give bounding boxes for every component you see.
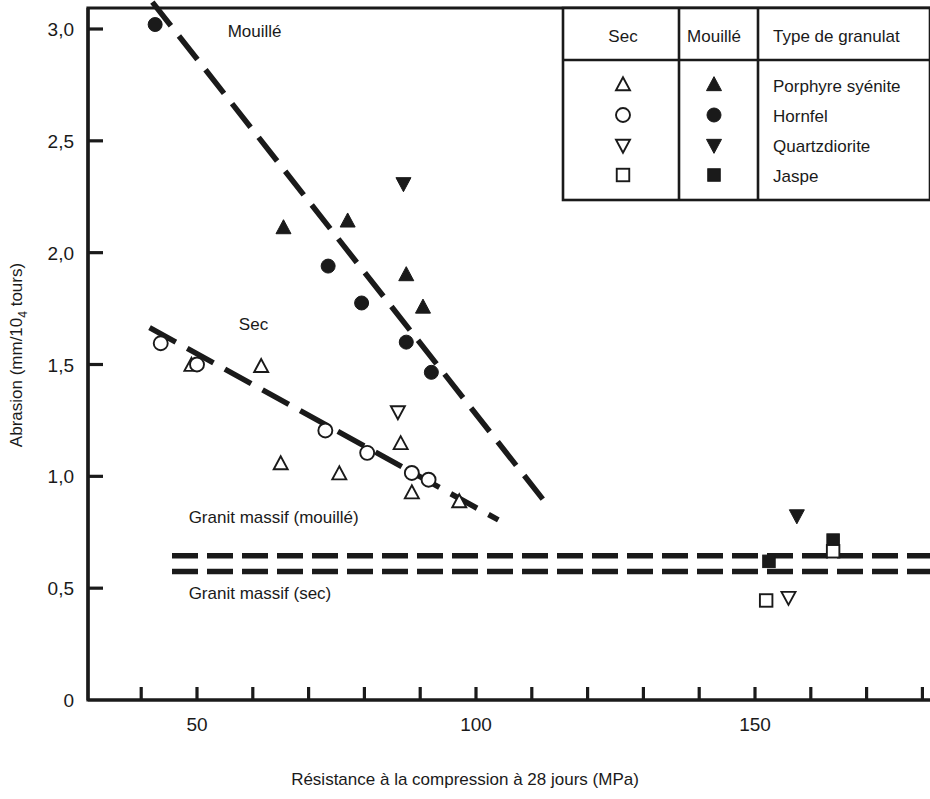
annotation-2: Granit massif (mouillé) (189, 508, 359, 527)
plot-annotations: MouilléSecGranit massif (mouillé)Granit … (189, 22, 359, 604)
data-point-filled-triangle-up (399, 267, 414, 281)
data-point-filled-triangle-up (276, 220, 291, 234)
data-point-open-circle (318, 423, 332, 437)
data-point-filled-circle (424, 365, 438, 379)
annotation-1: Sec (239, 315, 269, 334)
x-tick-label: 150 (739, 714, 771, 735)
legend-header-0: Sec (608, 27, 638, 46)
data-point-open-circle (405, 466, 419, 480)
legend-marker-sec-3 (617, 169, 630, 182)
data-point-filled-circle (148, 18, 162, 32)
data-point-filled-square (763, 555, 776, 568)
data-point-open-triangle-up (332, 466, 346, 479)
annotation-0: Mouillé (228, 22, 282, 41)
reference-lines (172, 556, 930, 572)
annotation-3: Granit massif (sec) (189, 584, 332, 603)
x-axis-title: Résistance à la compression à 28 jours (… (291, 770, 639, 789)
data-point-filled-triangle-up (340, 213, 355, 227)
legend-label-1: Hornfel (773, 107, 828, 126)
data-point-open-triangle-up (405, 485, 419, 498)
y-tick-label: 2,5 (48, 131, 74, 152)
legend-label-2: Quartzdiorite (773, 137, 870, 156)
x-axis: 50100150 (88, 687, 930, 735)
legend-marker-mouille-3 (708, 169, 721, 182)
y-tick-label: 1,5 (48, 355, 74, 376)
trend-lines (150, 2, 549, 520)
data-point-open-triangle-up (394, 436, 408, 449)
y-tick-label: 1,0 (48, 466, 74, 487)
series-2 (396, 178, 804, 524)
data-point-filled-circle (399, 335, 413, 349)
trend-line-0 (152, 2, 548, 506)
series-1 (148, 18, 438, 380)
data-point-filled-triangle-down (789, 510, 804, 524)
legend-header-1: Mouillé (687, 27, 741, 46)
data-point-open-triangle-down (781, 592, 795, 605)
legend-marker-sec-1 (616, 108, 630, 122)
data-point-open-square (760, 594, 773, 607)
x-tick-label: 100 (460, 714, 492, 735)
y-tick-label: 0,5 (48, 578, 74, 599)
legend-label-0: Porphyre syénite (773, 77, 901, 96)
data-point-filled-circle (355, 296, 369, 310)
svg-text:Abrasion (mm/104 tours): Abrasion (mm/104 tours) (7, 263, 30, 447)
series-6 (391, 406, 796, 605)
data-point-open-circle (360, 446, 374, 460)
legend-label-3: Jaspe (773, 167, 818, 186)
y-tick-label: 3,0 (48, 19, 74, 40)
data-point-open-square (827, 545, 840, 558)
data-point-open-circle (190, 358, 204, 372)
y-axis-title: Abrasion (mm/104 tours) (7, 263, 30, 447)
chart-figure: 50100150 00,51,01,52,02,53,0 MouilléSecG… (0, 0, 930, 799)
abrasion-scatter-chart: 50100150 00,51,01,52,02,53,0 MouilléSecG… (0, 0, 930, 799)
data-point-open-triangle-up (274, 456, 288, 469)
data-point-open-circle (422, 473, 436, 487)
data-point-open-triangle-down (391, 406, 405, 419)
legend-table: SecMouilléType de granulatPorphyre syéni… (563, 8, 930, 200)
y-tick-label: 0 (63, 690, 74, 711)
y-tick-label: 2,0 (48, 243, 74, 264)
data-point-filled-triangle-up (415, 299, 430, 313)
legend-marker-mouille-1 (707, 108, 721, 122)
x-tick-label: 50 (186, 714, 207, 735)
series-0 (276, 213, 431, 313)
data-point-open-circle (154, 336, 168, 350)
legend-header-2: Type de granulat (773, 27, 900, 46)
data-point-open-triangle-up (254, 359, 268, 372)
data-point-filled-circle (321, 259, 335, 273)
data-point-filled-triangle-down (396, 178, 411, 192)
y-axis: 00,51,01,52,02,53,0 (48, 8, 103, 711)
